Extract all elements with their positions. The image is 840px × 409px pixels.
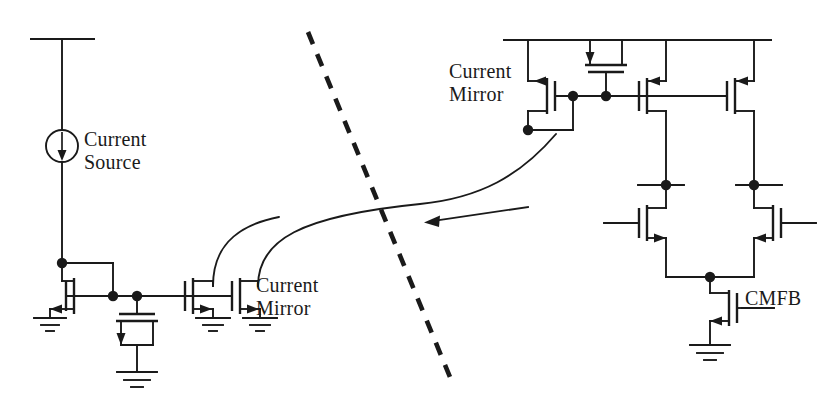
node-cap-gate bbox=[601, 91, 611, 101]
circuit-diagram-canvas: Current Source Current Mirror Current Mi… bbox=[0, 0, 840, 409]
node-output-left bbox=[661, 180, 671, 190]
left-pointing-arrow-shaft bbox=[433, 207, 528, 221]
left-pointing-arrow bbox=[424, 207, 528, 227]
M-cap-comp-left-arrow bbox=[586, 52, 595, 64]
M-pmos-load-left-source-arrow bbox=[648, 77, 660, 86]
cmfb-label: CMFB bbox=[745, 287, 801, 310]
ground-mirror-1 bbox=[196, 318, 230, 331]
dashed-divider-line bbox=[308, 32, 452, 382]
node-tail bbox=[705, 272, 715, 282]
node-bias-top bbox=[57, 258, 67, 268]
ground-cmfb bbox=[690, 345, 730, 360]
current-source-symbol bbox=[46, 130, 78, 162]
current-mirror-right-label: Current Mirror bbox=[449, 60, 512, 106]
M-pmos-load-left bbox=[639, 40, 666, 185]
M-mirror-out-1 bbox=[176, 278, 213, 318]
M-pmos-load-right-source-arrow bbox=[736, 77, 748, 86]
left-pointing-arrow-head bbox=[424, 216, 440, 228]
M-pmos-diode-source-arrow bbox=[534, 77, 546, 86]
M-cap-bias bbox=[116, 296, 158, 387]
bias-current-branch bbox=[30, 39, 142, 331]
ground-bias-nmos bbox=[34, 318, 66, 331]
schematic-svg bbox=[0, 0, 840, 409]
current-source-arrow-head bbox=[58, 150, 67, 161]
node-pmos-diode-tie bbox=[568, 91, 578, 101]
M-pmos-load-right bbox=[727, 40, 754, 185]
M-cmfb-tail-source-arrow bbox=[710, 317, 722, 326]
M-diff-left-source-arrow bbox=[654, 234, 666, 243]
node-output-right bbox=[749, 180, 759, 190]
M-cap-bias-source-arrow bbox=[117, 333, 126, 345]
M-bias-diode-source-arrow bbox=[50, 305, 62, 314]
M-cap-comp bbox=[585, 40, 627, 96]
current-mirror-left-label: Current Mirror bbox=[256, 274, 319, 320]
node-mirror-input bbox=[523, 125, 533, 135]
M-bias-diode bbox=[50, 263, 113, 316]
M-pmos-diode bbox=[528, 40, 606, 130]
current-source-label: Current Source bbox=[84, 128, 147, 174]
ground-mos-cap bbox=[117, 372, 157, 387]
M-cmfb-tail bbox=[710, 290, 742, 345]
M-diff-right bbox=[754, 185, 816, 277]
M-mirror-out-1-source-arrow bbox=[200, 305, 212, 314]
M-diff-right-source-arrow bbox=[754, 234, 766, 243]
M-diff-left bbox=[604, 185, 666, 277]
